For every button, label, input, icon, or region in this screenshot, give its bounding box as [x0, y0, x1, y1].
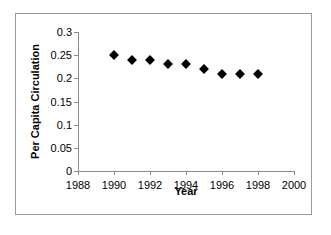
plot-area: 00.050.10.150.20.250.3 19881990199219941… — [78, 32, 294, 171]
y-tick-label: 0.25 — [51, 50, 72, 61]
x-tick-mark — [114, 171, 115, 175]
chart-frame: Per Capita Circulation 00.050.10.150.20.… — [15, 13, 312, 215]
data-point-marker — [181, 59, 191, 69]
y-tick-mark — [74, 78, 78, 79]
y-tick-mark — [74, 55, 78, 56]
data-point-marker — [253, 69, 263, 79]
y-axis-line — [78, 32, 79, 171]
data-point-marker — [127, 55, 137, 65]
y-axis-title-label: Per Capita Circulation — [30, 44, 41, 159]
x-tick-mark — [186, 171, 187, 175]
y-tick-label: 0.15 — [51, 96, 72, 107]
data-point-marker — [199, 64, 209, 74]
y-tick-mark — [74, 102, 78, 103]
x-tick-mark — [222, 171, 223, 175]
y-tick-label: 0.2 — [57, 73, 72, 84]
y-tick-mark — [74, 148, 78, 149]
y-tick-label: 0.1 — [57, 119, 72, 130]
data-point-marker — [235, 69, 245, 79]
y-tick-label: 0 — [66, 166, 72, 177]
y-axis-title: Per Capita Circulation — [28, 32, 42, 171]
x-tick-mark — [78, 171, 79, 175]
y-tick-label: 0.3 — [57, 27, 72, 38]
x-tick-mark — [294, 171, 295, 175]
y-tick-label: 0.05 — [51, 142, 72, 153]
data-point-marker — [217, 69, 227, 79]
data-point-marker — [109, 50, 119, 60]
data-point-marker — [163, 59, 173, 69]
y-tick-mark — [74, 125, 78, 126]
y-tick-mark — [74, 32, 78, 33]
x-tick-mark — [150, 171, 151, 175]
x-axis-title: Year — [78, 186, 294, 197]
data-point-marker — [145, 55, 155, 65]
x-tick-mark — [258, 171, 259, 175]
